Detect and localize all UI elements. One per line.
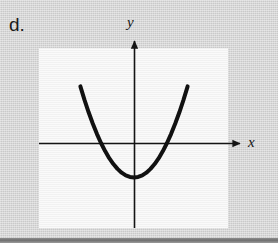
graph-svg	[0, 0, 278, 243]
figure-container: d. y x	[0, 0, 278, 243]
bottom-divider	[0, 238, 278, 243]
y-axis-label: y	[127, 15, 134, 30]
x-axis-label: x	[248, 135, 255, 150]
